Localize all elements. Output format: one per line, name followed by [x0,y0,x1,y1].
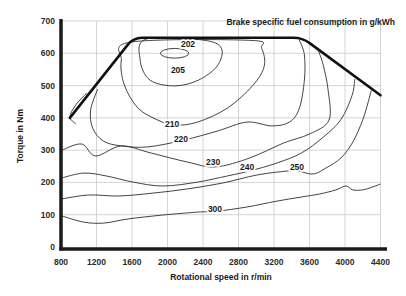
contour-line-230 [62,50,330,167]
y-tick-label: 0 [50,242,55,252]
contour-value-label: 205 [171,65,185,75]
contour-value-label: 250 [290,162,304,172]
contour-line-210 [119,40,265,126]
full-load-torque-curve [70,38,381,118]
contour-value-label: 202 [181,39,195,49]
x-tick-label: 800 [54,257,68,267]
contour-value-label: 220 [174,134,188,144]
y-tick-label: 300 [41,145,55,155]
x-tick-label: 3600 [300,257,319,267]
x-tick-label: 4400 [371,257,390,267]
x-axis-title: Rotational speed in r/min [61,272,381,282]
contour-value-label: 210 [165,119,179,129]
y-tick-label: 600 [41,48,55,58]
bsfc-contour-plot: 8001200160020002400280032003600400044000… [0,0,406,296]
contour-value-label: 230 [206,157,220,167]
x-tick-label: 4000 [336,257,355,267]
contour-line-240 [62,79,355,186]
y-tick-label: 500 [41,81,55,91]
x-tick-label: 1600 [123,257,142,267]
contour-value-label: 240 [240,162,254,172]
contour-value-label: 300 [208,204,222,214]
y-tick-label: 100 [41,210,55,220]
x-tick-label: 2000 [158,257,177,267]
x-tick-label: 3200 [265,257,284,267]
x-tick-label: 2800 [229,257,248,267]
y-tick-label: 200 [41,177,55,187]
bsfc-contour-figure: 8001200160020002400280032003600400044000… [0,0,406,296]
y-tick-label: 400 [41,113,55,123]
y-tick-label: 700 [41,16,55,26]
x-tick-label: 1200 [87,257,106,267]
contour-line-220 [90,40,305,147]
y-axis-title: Torque in Nm [15,109,25,163]
x-tick-label: 2400 [194,257,213,267]
chart-title: Brake specific fuel consumption in g/kWh [226,17,395,27]
